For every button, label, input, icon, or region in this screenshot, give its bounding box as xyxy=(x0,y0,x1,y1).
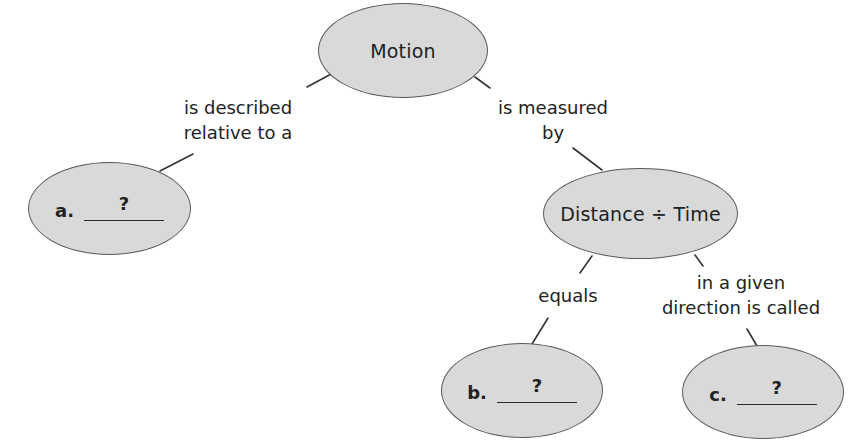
blank-a: a. ? xyxy=(55,200,164,221)
link-label-line-2: by xyxy=(483,120,623,145)
node-distance-time-label: Distance ÷ Time xyxy=(560,203,721,225)
link-label-line-2: relative to a xyxy=(168,120,308,145)
link-label-equals: equals xyxy=(523,283,613,308)
blank-b: b. ? xyxy=(467,382,577,403)
link-label-line-1: equals xyxy=(523,283,613,308)
link-label-measured-by: is measured by xyxy=(483,95,623,145)
connector-motion-to-label-measured xyxy=(475,77,490,88)
node-a-blank: a. ? xyxy=(28,162,191,255)
question-mark-icon: ? xyxy=(737,378,817,398)
link-label-line-2: direction is called xyxy=(636,295,846,320)
connector-distance-to-label-direction xyxy=(695,255,703,266)
blank-c-letter: c. xyxy=(709,385,727,405)
blank-b-letter: b. xyxy=(467,383,487,403)
link-label-direction-called: in a given direction is called xyxy=(636,270,846,320)
blank-b-answer-line[interactable]: ? xyxy=(497,382,577,403)
link-label-line-1: is measured xyxy=(483,95,623,120)
connector-motion-to-label-a xyxy=(307,73,333,87)
connector-label-equals-to-node-b xyxy=(532,318,548,344)
node-distance-time: Distance ÷ Time xyxy=(543,168,738,259)
blank-a-answer-line[interactable]: ? xyxy=(84,200,164,221)
node-c-blank: c. ? xyxy=(682,345,844,439)
connector-label-direction-to-node-c xyxy=(747,329,757,346)
connector-label-measured-to-distance xyxy=(573,148,602,170)
link-label-described-relative: is described relative to a xyxy=(168,95,308,145)
node-b-blank: b. ? xyxy=(441,343,603,438)
blank-c: c. ? xyxy=(709,384,817,405)
connector-label-a-to-node-a xyxy=(160,154,193,171)
blank-c-answer-line[interactable]: ? xyxy=(737,384,817,405)
link-label-line-1: in a given xyxy=(636,270,846,295)
connector-distance-to-label-equals xyxy=(580,256,592,273)
link-label-line-1: is described xyxy=(168,95,308,120)
question-mark-icon: ? xyxy=(84,194,164,214)
node-motion-label: Motion xyxy=(370,40,436,62)
blank-a-letter: a. xyxy=(55,201,74,221)
question-mark-icon: ? xyxy=(497,376,577,396)
node-motion: Motion xyxy=(318,3,488,98)
